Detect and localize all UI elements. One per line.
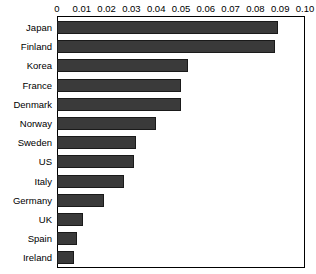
bar-row: Japan (0, 18, 316, 37)
bar-row: Italy (0, 172, 316, 191)
bar-chart: 00.010.020.030.040.050.060.070.080.090.1… (0, 0, 316, 274)
bar-row: Denmark (0, 95, 316, 114)
bar (57, 175, 124, 188)
bar-row: Finland (0, 37, 316, 56)
bar (57, 21, 278, 34)
x-tick-label: 0.03 (122, 3, 141, 14)
category-label: Sweden (0, 137, 52, 148)
bar-row: US (0, 152, 316, 171)
category-label: Norway (0, 118, 52, 129)
bar-rows: JapanFinlandKoreaFranceDenmarkNorwaySwed… (0, 16, 316, 268)
bar-row: Germany (0, 191, 316, 210)
bar-row: Korea (0, 56, 316, 75)
x-tick-label: 0.01 (73, 3, 92, 14)
bar-row: Ireland (0, 248, 316, 267)
bar-row: Norway (0, 114, 316, 133)
category-label: Japan (0, 22, 52, 33)
category-label: France (0, 80, 52, 91)
bar-row: Sweden (0, 133, 316, 152)
x-tick-label: 0.07 (221, 3, 240, 14)
bar-row: Spain (0, 229, 316, 248)
bar (57, 155, 134, 168)
category-label: US (0, 156, 52, 167)
category-label: UK (0, 214, 52, 225)
bar (57, 79, 181, 92)
x-tick-label: 0 (54, 3, 59, 14)
x-tick-label: 0.05 (172, 3, 191, 14)
bar (57, 59, 188, 72)
category-label: Korea (0, 60, 52, 71)
bar (57, 194, 104, 207)
bar-row: France (0, 76, 316, 95)
bar (57, 136, 136, 149)
x-tick-label: 0.08 (246, 3, 265, 14)
bar-row: UK (0, 210, 316, 229)
category-label: Italy (0, 176, 52, 187)
category-label: Denmark (0, 99, 52, 110)
x-tick-label: 0.02 (97, 3, 116, 14)
category-label: Spain (0, 233, 52, 244)
bar (57, 40, 275, 53)
bar (57, 213, 83, 226)
category-label: Finland (0, 41, 52, 52)
x-tick-label: 0.06 (197, 3, 216, 14)
x-tick-label: 0.04 (147, 3, 166, 14)
category-label: Ireland (0, 252, 52, 263)
x-tick-label: 0.10 (296, 3, 315, 14)
bar (57, 117, 156, 130)
bar (57, 251, 74, 264)
x-tick-label: 0.09 (271, 3, 290, 14)
bar (57, 232, 77, 245)
bar (57, 98, 181, 111)
category-label: Germany (0, 195, 52, 206)
